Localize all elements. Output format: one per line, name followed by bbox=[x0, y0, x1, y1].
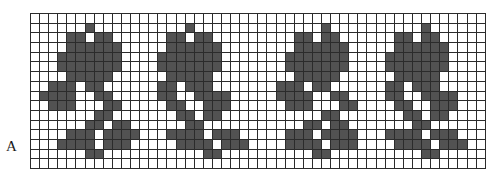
pattern-cell-empty bbox=[76, 101, 85, 111]
pattern-cell-filled bbox=[403, 101, 412, 111]
pattern-grid-body bbox=[31, 14, 486, 169]
pattern-cell-filled bbox=[331, 130, 340, 140]
pattern-cell-filled bbox=[167, 72, 176, 82]
pattern-cell-empty bbox=[267, 149, 276, 159]
pattern-cell-filled bbox=[185, 72, 194, 82]
pattern-cell-filled bbox=[394, 91, 403, 101]
pattern-cell-empty bbox=[49, 14, 58, 24]
pattern-cell-filled bbox=[103, 33, 112, 43]
pattern-cell-empty bbox=[376, 91, 385, 101]
pattern-cell-empty bbox=[40, 33, 49, 43]
pattern-cell-empty bbox=[112, 110, 121, 120]
pattern-cell-empty bbox=[331, 159, 340, 169]
pattern-cell-empty bbox=[131, 14, 140, 24]
pattern-cell-empty bbox=[367, 130, 376, 140]
pattern-cell-filled bbox=[103, 62, 112, 72]
pattern-cell-empty bbox=[449, 81, 458, 91]
pattern-cell-empty bbox=[185, 101, 194, 111]
pattern-cell-filled bbox=[185, 130, 194, 140]
pattern-cell-empty bbox=[340, 23, 349, 33]
pattern-cell-empty bbox=[131, 81, 140, 91]
pattern-cell-filled bbox=[85, 130, 94, 140]
pattern-cell-filled bbox=[167, 91, 176, 101]
pattern-cell-filled bbox=[67, 81, 76, 91]
pattern-cell-filled bbox=[85, 43, 94, 53]
pattern-cell-empty bbox=[249, 149, 258, 159]
pattern-cell-empty bbox=[112, 72, 121, 82]
pattern-cell-filled bbox=[231, 139, 240, 149]
pattern-cell-empty bbox=[194, 23, 203, 33]
pattern-cell-empty bbox=[276, 120, 285, 130]
pattern-cell-empty bbox=[431, 159, 440, 169]
pattern-cell-empty bbox=[40, 52, 49, 62]
pattern-cell-filled bbox=[121, 130, 130, 140]
pattern-cell-empty bbox=[312, 159, 321, 169]
pattern-cell-empty bbox=[476, 120, 485, 130]
pattern-cell-empty bbox=[158, 101, 167, 111]
pattern-cell-empty bbox=[40, 110, 49, 120]
pattern-cell-empty bbox=[458, 62, 467, 72]
pattern-cell-empty bbox=[276, 159, 285, 169]
pattern-cell-empty bbox=[76, 110, 85, 120]
pattern-cell-filled bbox=[58, 91, 67, 101]
pattern-cell-empty bbox=[276, 101, 285, 111]
pattern-cell-empty bbox=[158, 72, 167, 82]
pattern-cell-empty bbox=[240, 91, 249, 101]
pattern-cell-empty bbox=[385, 33, 394, 43]
pattern-cell-empty bbox=[203, 120, 212, 130]
pattern-cell-empty bbox=[185, 149, 194, 159]
pattern-cell-empty bbox=[358, 43, 367, 53]
pattern-cell-empty bbox=[249, 52, 258, 62]
pattern-cell-empty bbox=[403, 120, 412, 130]
pattern-cell-filled bbox=[431, 62, 440, 72]
pattern-cell-empty bbox=[367, 62, 376, 72]
pattern-cell-filled bbox=[422, 120, 431, 130]
pattern-cell-empty bbox=[121, 159, 130, 169]
pattern-cell-empty bbox=[422, 101, 431, 111]
pattern-cell-filled bbox=[440, 91, 449, 101]
pattern-cell-empty bbox=[249, 91, 258, 101]
pattern-cell-empty bbox=[149, 139, 158, 149]
pattern-cell-filled bbox=[167, 43, 176, 53]
pattern-cell-empty bbox=[467, 33, 476, 43]
pattern-cell-empty bbox=[385, 14, 394, 24]
pattern-cell-empty bbox=[322, 14, 331, 24]
pattern-cell-filled bbox=[394, 43, 403, 53]
pattern-cell-empty bbox=[140, 149, 149, 159]
pattern-cell-empty bbox=[203, 130, 212, 140]
pattern-cell-filled bbox=[276, 91, 285, 101]
pattern-cell-filled bbox=[167, 101, 176, 111]
pattern-cell-filled bbox=[340, 52, 349, 62]
pattern-cell-filled bbox=[440, 62, 449, 72]
pattern-cell-empty bbox=[403, 81, 412, 91]
pattern-cell-empty bbox=[31, 81, 40, 91]
pattern-cell-empty bbox=[349, 81, 358, 91]
pattern-cell-filled bbox=[158, 91, 167, 101]
pattern-cell-empty bbox=[140, 110, 149, 120]
pattern-cell-filled bbox=[76, 43, 85, 53]
pattern-cell-filled bbox=[331, 62, 340, 72]
pattern-cell-empty bbox=[221, 110, 230, 120]
pattern-cell-filled bbox=[412, 130, 421, 140]
pattern-cell-empty bbox=[267, 81, 276, 91]
pattern-cell-filled bbox=[312, 72, 321, 82]
pattern-cell-empty bbox=[394, 159, 403, 169]
pattern-cell-empty bbox=[467, 52, 476, 62]
pattern-cell-empty bbox=[240, 149, 249, 159]
pattern-cell-empty bbox=[221, 81, 230, 91]
pattern-cell-empty bbox=[231, 72, 240, 82]
pattern-cell-empty bbox=[385, 159, 394, 169]
pattern-cell-empty bbox=[176, 91, 185, 101]
pattern-cell-empty bbox=[158, 43, 167, 53]
pattern-cell-empty bbox=[458, 110, 467, 120]
pattern-cell-filled bbox=[121, 120, 130, 130]
pattern-cell-empty bbox=[149, 81, 158, 91]
pattern-cell-empty bbox=[267, 130, 276, 140]
pattern-grid-row bbox=[31, 130, 486, 140]
pattern-grid-row bbox=[31, 110, 486, 120]
pattern-cell-empty bbox=[276, 72, 285, 82]
pattern-cell-empty bbox=[231, 101, 240, 111]
pattern-cell-empty bbox=[112, 14, 121, 24]
pattern-cell-empty bbox=[221, 149, 230, 159]
pattern-cell-filled bbox=[58, 62, 67, 72]
